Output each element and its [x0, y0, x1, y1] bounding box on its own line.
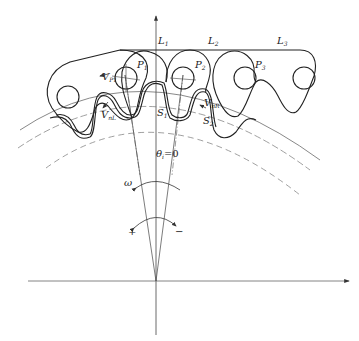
- label-vnl: VnL: [101, 109, 116, 121]
- label-s2: S2: [203, 115, 214, 127]
- label-plus: +: [128, 226, 136, 237]
- pin-hole-p2: [172, 67, 194, 89]
- chain-sprocket-diagram: L1 L2 L3 P1 P2 P3 VP1 VnL VnR S1 S2 θi=0…: [0, 0, 359, 341]
- link-l1: [47, 50, 147, 132]
- label-minus: −: [175, 226, 183, 237]
- label-l2: L2: [207, 35, 219, 47]
- pin-hole-p3: [234, 67, 256, 89]
- label-p2: P2: [194, 59, 206, 71]
- label-omega: ω: [124, 177, 132, 188]
- label-vp1: VP1: [102, 71, 117, 83]
- label-s1: S1: [157, 107, 168, 119]
- sign-arc: [134, 217, 176, 228]
- pin-hole-end: [293, 67, 315, 89]
- label-l1: L1: [157, 35, 168, 47]
- label-l3: L3: [276, 35, 288, 47]
- omega-arc: [136, 181, 180, 190]
- label-p3: P3: [254, 59, 266, 71]
- radial-lines: [125, 75, 183, 281]
- tooth-center-lines: [125, 75, 183, 175]
- label-theta: θi=0: [156, 148, 179, 160]
- pin-crosshairs: [112, 64, 196, 92]
